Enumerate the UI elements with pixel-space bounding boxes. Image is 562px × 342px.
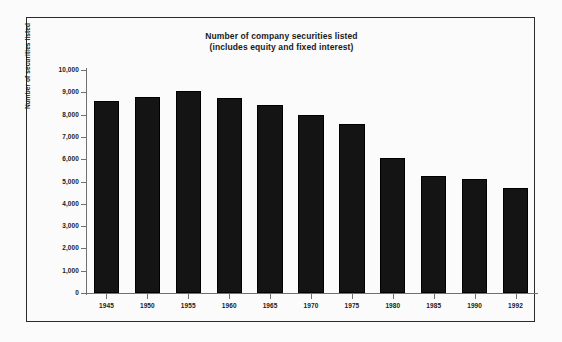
y-axis-label: 0 [33,289,79,296]
chart-figure: Number of company securities listed (inc… [0,0,562,342]
x-axis-tick [393,294,394,299]
x-axis-line [86,293,538,294]
bar [421,176,446,293]
bar [380,158,405,293]
bar [257,105,282,293]
bar [339,124,364,293]
chart-frame: Number of company securities listed (inc… [26,17,535,322]
y-axis-label-wrap: 1,000 [27,267,79,275]
chart-title-line-2: (includes equity and fixed interest) [27,42,536,53]
y-axis-label: 3,000 [33,222,79,229]
bar [94,101,119,293]
x-axis-label: 1945 [86,302,127,309]
x-axis-label: 1990 [454,302,495,309]
x-axis-tick [434,294,435,299]
chart-title-line-1: Number of company securities listed [27,31,536,42]
y-axis-label: 7,000 [33,133,79,140]
x-axis-tick [106,294,107,299]
y-axis-label-wrap: 4,000 [27,200,79,208]
y-axis-label-wrap: 8,000 [27,111,79,119]
y-axis-label-wrap: 5,000 [27,178,79,186]
y-axis-label: 8,000 [33,111,79,118]
x-axis-tick [147,294,148,299]
y-axis-tick [81,293,87,294]
x-axis-tick [229,294,230,299]
y-axis-label-wrap: 9,000 [27,88,79,96]
x-axis-label: 1965 [250,302,291,309]
bar [298,115,323,293]
y-axis-label: 6,000 [33,155,79,162]
y-axis-label: 5,000 [33,178,79,185]
x-axis-label: 1992 [495,302,536,309]
y-axis-label-wrap: 0 [27,289,79,297]
y-axis-label-wrap: 6,000 [27,155,79,163]
y-axis-label-wrap: 3,000 [27,222,79,230]
y-axis-label: 9,000 [33,88,79,95]
x-axis-label: 1975 [331,302,372,309]
bar [135,97,160,293]
y-axis-label: 4,000 [33,200,79,207]
x-axis-label: 1950 [127,302,168,309]
x-axis-tick [188,294,189,299]
x-axis-tick [516,294,517,299]
y-axis-label: 10,000 [33,66,79,73]
bar [503,188,528,293]
y-axis-label-wrap: 7,000 [27,133,79,141]
y-axis-label-wrap: 10,000 [27,66,79,74]
x-axis-label: 1960 [209,302,250,309]
x-axis-label: 1985 [413,302,454,309]
x-axis-label: 1980 [372,302,413,309]
x-axis-tick [311,294,312,299]
bar [462,179,487,293]
x-axis-label: 1970 [291,302,332,309]
chart-title: Number of company securities listed (inc… [27,31,536,52]
x-axis-tick [270,294,271,299]
plot-area [86,70,536,293]
x-axis-tick [475,294,476,299]
y-axis-label: 2,000 [33,244,79,251]
y-axis-label: 1,000 [33,267,79,274]
y-axis-label-wrap: 2,000 [27,244,79,252]
bar [217,98,242,293]
x-axis-tick [352,294,353,299]
bar [176,91,201,293]
x-axis-label: 1955 [168,302,209,309]
